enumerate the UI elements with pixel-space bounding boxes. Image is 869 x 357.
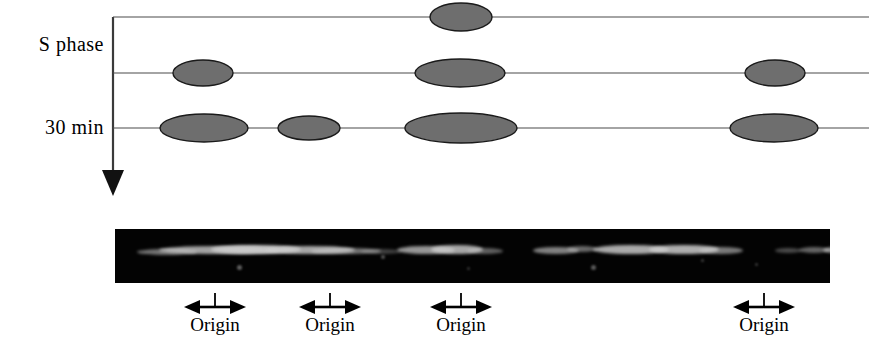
replication-schematic <box>0 0 869 210</box>
gel-band-14 <box>775 248 801 253</box>
origin-label: Origin <box>287 315 373 334</box>
origin-left-arrowhead <box>299 300 315 314</box>
origin-right-arrowhead <box>230 300 246 314</box>
origin-left-arrowhead <box>184 300 200 314</box>
gel-band-5 <box>361 249 401 254</box>
origin-left-arrowhead <box>430 300 446 314</box>
origin-right-arrowhead <box>476 300 492 314</box>
origin-marker-3: Origin <box>418 290 504 334</box>
gel-speck-4 <box>467 267 470 270</box>
replication-bubble-r2-b2 <box>405 113 517 143</box>
replication-bubble-r2-b0 <box>160 114 248 142</box>
replication-bubble-r1-b0 <box>173 60 233 86</box>
origin-marker-2: Origin <box>287 290 373 334</box>
replication-bubble-r0-b0 <box>430 3 492 31</box>
gel-band-13 <box>699 247 743 254</box>
origin-arrow-icon <box>172 290 258 314</box>
origin-arrow-icon <box>721 290 807 314</box>
origin-left-arrowhead <box>733 300 749 314</box>
origin-arrow-icon <box>418 290 504 314</box>
origin-arrow-icon <box>287 290 373 314</box>
gel-autoradiograph-panel <box>115 229 830 283</box>
replication-bubble-r2-b3 <box>730 114 818 142</box>
gel-speck-1 <box>381 255 385 259</box>
origin-right-arrowhead <box>779 300 795 314</box>
origin-label: Origin <box>721 315 807 334</box>
gel-band-8 <box>467 248 503 254</box>
time-axis-arrow <box>102 17 124 196</box>
replication-bubble-r1-b1 <box>415 59 505 87</box>
replication-bubble-r2-b1 <box>278 116 340 140</box>
origin-right-arrowhead <box>345 300 361 314</box>
origin-marker-1: Origin <box>172 290 258 334</box>
time-axis-arrowhead <box>102 170 124 196</box>
origin-label: Origin <box>172 315 258 334</box>
origin-marker-4: Origin <box>721 290 807 334</box>
origin-label: Origin <box>418 315 504 334</box>
gel-speck-5 <box>755 263 758 266</box>
gel-speck-2 <box>591 265 596 270</box>
gel-speck-0 <box>237 265 242 270</box>
figure-root: S phase 30 min OriginOriginOriginOrigin <box>0 0 869 357</box>
gel-speck-3 <box>701 259 704 262</box>
replication-bubble-r1-b2 <box>745 60 805 86</box>
